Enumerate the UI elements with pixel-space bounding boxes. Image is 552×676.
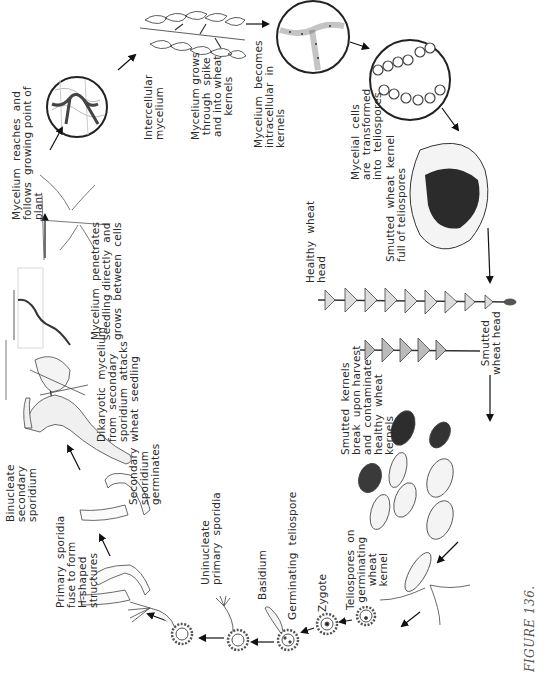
label-mycelium-grows-spike: Mycelium grows through spike and into wh… (190, 52, 234, 140)
label-intercellular-mycelium: Intercellular mycelium (143, 75, 165, 140)
label-dikaryotic-mycelium: Dikaryotic mycelium from secondary spori… (96, 327, 140, 442)
label-secondary-sporidium-germinates: Secondary sporidium germinates (128, 443, 161, 505)
label-uninucleate-primary-sporidia: Uninucleate primary sporidia (200, 492, 222, 585)
label-mycelium-penetrates: Mycelium penetrates seedling directly an… (90, 222, 123, 340)
label-mycelium-intracellular: Mycelium becomes intracellular in kernel… (253, 40, 286, 148)
healthy-wheat-head-icon (318, 288, 516, 314)
label-teliospores-on-kernel: Teliospores on germinating wheat kernel (345, 529, 389, 610)
label-primary-sporidia-fuse: Primary sporidia fuse to form H-shaped s… (55, 516, 99, 608)
intracellular-mycelium-icon (277, 1, 349, 73)
label-smutted-kernel: Smutted wheat kernel full of teliospores (385, 135, 407, 262)
label-binucleate-secondary-sporidium: Binucleate secondary sporidium (5, 464, 38, 522)
germinating-kernel-icon (380, 549, 470, 625)
smutted-kernel-icon (410, 143, 488, 249)
life-cycle-diagram: Intercellular mycelium Mycelium grows th… (0, 0, 552, 676)
label-zygote: Zygote (317, 574, 328, 612)
label-smutted-wheat-head: Smutted wheat head (480, 311, 502, 375)
label-germinating-teliospore: Germinating teliospore (287, 491, 298, 620)
figure-caption: FIGURE 136. (523, 585, 537, 672)
intercellular-mycelium-icon (47, 77, 107, 137)
label-smutted-kernels-break: Smutted kernels break upon harvest and c… (340, 345, 395, 455)
seedling-attack-icon (6, 340, 88, 400)
label-basidium: Basidium (257, 550, 268, 600)
seedling-penetration-icon (14, 268, 70, 348)
label-mycelial-cells-transformed: Mycelial cells are transformed into teli… (350, 89, 383, 180)
label-healthy-wheat-head: Healthy wheat head (305, 201, 327, 283)
label-mycelium-reaches: Mycelium reaches and follows growing poi… (11, 86, 44, 220)
basidium-icon (128, 596, 283, 632)
